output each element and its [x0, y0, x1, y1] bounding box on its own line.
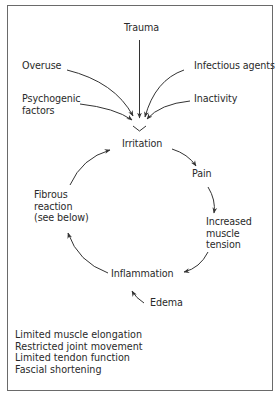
outcome-item: Fascial shortening [15, 364, 143, 376]
node-pain: Pain [192, 168, 212, 180]
node-fibrous-reaction: Fibrous reaction (see below) [34, 189, 89, 224]
arrow-inflammation-to-fibrous [68, 233, 108, 273]
outcome-item: Restricted joint movement [15, 341, 143, 353]
arrow-infectious-to-irritation [145, 70, 184, 117]
outcome-item: Limited muscle elongation [15, 329, 143, 341]
node-irritation: Irritation [122, 138, 162, 150]
label-infectious-agents: Infectious agents [194, 60, 275, 72]
label-inactivity: Inactivity [194, 93, 237, 105]
outcome-item: Limited tendon function [15, 352, 143, 364]
convergence-chevron [133, 126, 146, 131]
arrow-psychogenic-to-irritation [80, 104, 132, 120]
arrow-edema-to-inflammation [132, 291, 144, 303]
arrow-tension-to-inflammation [184, 252, 208, 272]
arrow-inactivity-to-irritation [147, 101, 190, 119]
arrow-irritation-to-pain [172, 149, 196, 166]
label-edema: Edema [150, 297, 183, 309]
label-overuse: Overuse [22, 60, 61, 72]
node-inflammation: Inflammation [111, 268, 174, 280]
node-increased-muscle-tension: Increased muscle tension [206, 216, 252, 251]
arrow-pain-to-tension [208, 187, 214, 213]
label-psychogenic-factors: Psychogenic factors [22, 93, 80, 116]
arrow-fibrous-to-irritation [70, 150, 110, 185]
outcomes-list: Limited muscle elongation Restricted joi… [15, 329, 143, 375]
label-trauma: Trauma [124, 22, 159, 34]
